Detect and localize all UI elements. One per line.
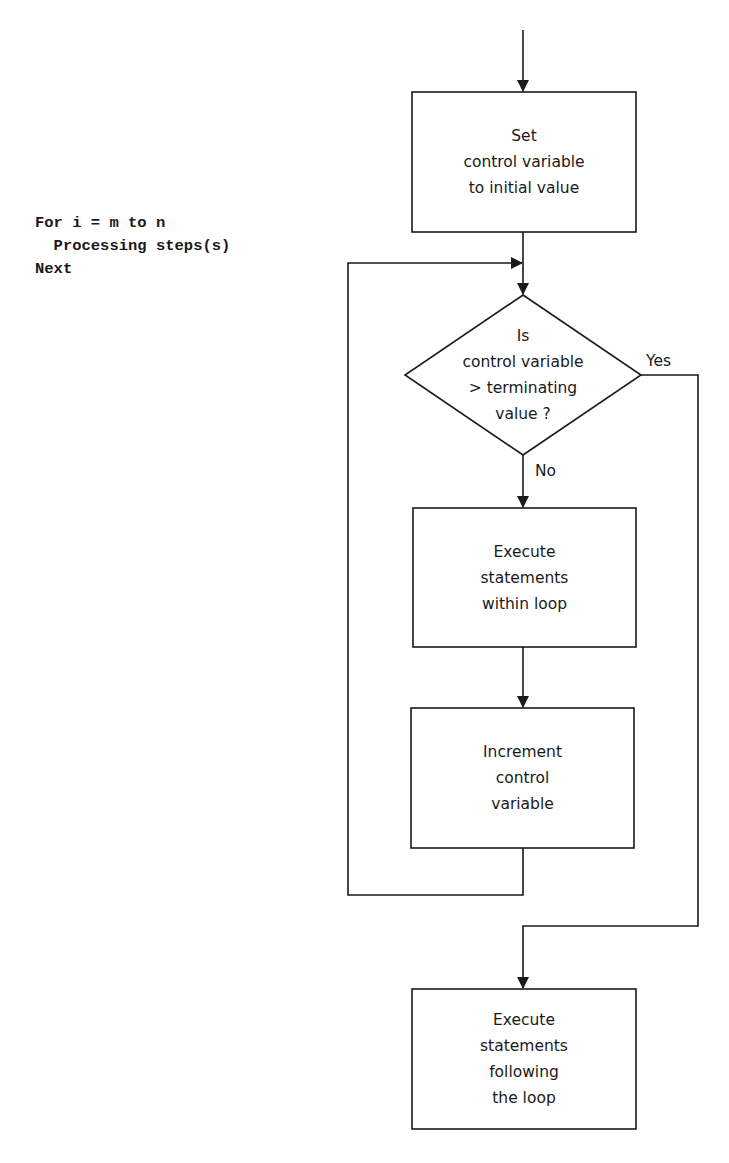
init-line-1: Set — [511, 123, 536, 149]
yes-label: Yes — [646, 352, 671, 370]
body-line-2: statements — [481, 565, 569, 591]
body-line-3: within loop — [482, 591, 567, 617]
test-line-1: Is — [517, 323, 530, 349]
test-line-3: > terminating — [469, 375, 577, 401]
body-node: Execute statements within loop — [413, 508, 636, 647]
init-node: Set control variable to initial value — [412, 92, 636, 232]
body-line-1: Execute — [494, 539, 556, 565]
after-line-4: the loop — [492, 1085, 555, 1111]
after-line-1: Execute — [493, 1007, 555, 1033]
increment-line-1: Increment — [483, 739, 562, 765]
test-node: Is control variable > terminating value … — [405, 295, 641, 455]
after-node: Execute statements following the loop — [412, 989, 636, 1129]
after-line-3: following — [489, 1059, 559, 1085]
init-line-2: control variable — [463, 149, 584, 175]
increment-line-2: control — [496, 765, 550, 791]
test-line-4: value ? — [495, 401, 551, 427]
no-label: No — [535, 462, 556, 480]
after-line-2: statements — [480, 1033, 568, 1059]
test-line-2: control variable — [462, 349, 583, 375]
increment-line-3: variable — [491, 791, 554, 817]
increment-node: Increment control variable — [411, 708, 634, 848]
init-line-3: to initial value — [469, 175, 579, 201]
